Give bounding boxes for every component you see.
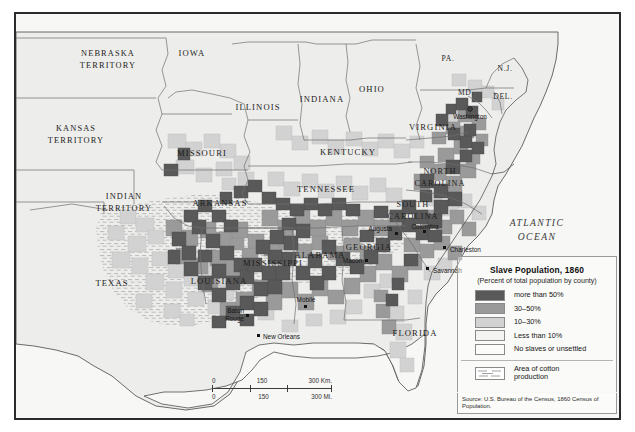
scale-km-150: 150 — [257, 377, 268, 384]
legend-label-over-50: more than 50% — [514, 291, 564, 299]
legend-item-cotton: Area of cotton production — [461, 365, 613, 382]
legend-item-30-50: 30–50% — [461, 303, 613, 314]
city-dot-mobile — [304, 305, 307, 308]
city-label-baton-rouge-line1: Baton — [227, 307, 244, 314]
state-label-georgia: GEORGIA — [346, 242, 392, 252]
state-label-south-carolina-2: CAROLINA — [387, 212, 438, 221]
state-label-alabama: ALABAMA — [294, 250, 345, 260]
city-dot-savannah — [426, 267, 429, 270]
legend-item-10-30: 10–30% — [461, 317, 613, 328]
legend-subtitle: (Percent of total population by county) — [461, 277, 613, 285]
city-label-charleston: Charleston — [450, 246, 481, 253]
city-label-baton-rouge-line2: Rouge — [225, 315, 244, 323]
state-label-tennessee: TENNESSEE — [297, 184, 355, 194]
state-label-texas: TEXAS — [95, 278, 128, 288]
state-label-north-carolina-2: CAROLINA — [414, 179, 465, 188]
state-label-kansas-territory-2: TERRITORY — [48, 136, 104, 145]
legend-label-10-30: 10–30% — [514, 318, 541, 326]
legend-swatch-cotton — [475, 367, 505, 380]
state-abbr-nj: N.J. — [497, 64, 512, 73]
state-label-illinois: ILLINOIS — [235, 102, 280, 112]
state-label-indiana: INDIANA — [300, 94, 344, 104]
city-dot-augusta — [395, 232, 398, 235]
city-dot-baton-rouge — [246, 314, 249, 317]
legend-swatch-under-10 — [475, 330, 505, 341]
legend-label-30-50: 30–50% — [514, 305, 541, 313]
scale-bar: 0 150 300 Km. 0 150 300 Mi. — [212, 377, 332, 400]
city-dot-charleston — [443, 246, 446, 249]
state-label-florida: FLORIDA — [393, 328, 438, 338]
scale-km-labels: 0 150 300 Km. — [212, 377, 332, 384]
ocean-label-line1: ATLANTIC — [509, 217, 565, 228]
city-dot-new-orleans — [257, 334, 260, 337]
state-label-arkansas: ARKANSAS — [192, 198, 247, 208]
state-label-virginia: VIRGINIA — [409, 122, 457, 132]
source-note: Source: U.S. Bureau of the Census, 1860 … — [462, 396, 613, 410]
city-label-new-orleans: New Orleans — [263, 333, 300, 340]
city-dot-columbia — [423, 230, 426, 233]
state-label-south-carolina-1: SOUTH — [397, 200, 430, 209]
state-label-indian-territory-1: INDIAN — [106, 192, 142, 201]
legend-swatch-none — [475, 344, 505, 355]
state-label-nebraska-territory-1: NEBRASKA — [81, 49, 135, 58]
legend-divider — [461, 360, 613, 361]
city-label-mobile: Mobile — [297, 296, 316, 303]
legend-item-under-10: Less than 10% — [461, 330, 613, 341]
state-abbr-del: DEL. — [493, 92, 512, 101]
scale-mi-labels: 0 150 300 Mi. — [212, 393, 332, 400]
scale-mi-150: 150 — [258, 393, 269, 400]
legend-item-over-50: more than 50% — [461, 290, 613, 301]
legend-label-none: No slaves or unsettled — [514, 345, 586, 353]
state-abbr-md: MD. — [458, 88, 474, 97]
scale-mi-0: 0 — [212, 393, 216, 400]
state-label-iowa: IOWA — [179, 48, 206, 58]
map-frame: Washington Columbia Charleston Savannah … — [14, 12, 621, 420]
legend-label-cotton-line2: production — [514, 372, 548, 381]
city-label-columbia: Columbia — [412, 223, 439, 230]
source-note-box: Source: U.S. Bureau of the Census, 1860 … — [457, 393, 617, 414]
city-label-macon: Macon — [343, 257, 363, 264]
scale-mi-300: 300 Mi. — [311, 393, 332, 400]
state-label-kentucky: KENTUCKY — [320, 147, 376, 157]
state-label-indian-territory-2: TERRITORY — [96, 204, 152, 213]
legend-swatch-30-50 — [475, 303, 505, 314]
scale-km-0: 0 — [212, 377, 216, 384]
legend-title: Slave Population, 1860 — [461, 265, 613, 275]
state-abbr-pa: PA. — [441, 54, 454, 63]
legend-swatch-10-30 — [475, 317, 505, 328]
legend-label-under-10: Less than 10% — [514, 332, 562, 340]
city-label-washington: Washington — [453, 113, 487, 121]
city-label-augusta: Augusta — [369, 225, 393, 233]
state-label-nebraska-territory-2: TERRITORY — [80, 61, 136, 70]
state-label-north-carolina-1: NORTH — [423, 167, 456, 176]
ocean-label-line2: OCEAN — [518, 231, 556, 242]
legend-item-none: No slaves or unsettled — [461, 344, 613, 355]
legend-swatch-over-50 — [475, 290, 505, 301]
state-label-missouri: MISSOURI — [177, 148, 227, 158]
legend: Slave Population, 1860 (Percent of total… — [461, 265, 613, 384]
screenshot-root: Washington Columbia Charleston Savannah … — [0, 0, 635, 432]
legend-label-cotton: Area of cotton production — [514, 365, 559, 382]
state-label-ohio: OHIO — [359, 84, 385, 94]
state-label-kansas-territory-1: KANSAS — [56, 124, 96, 133]
city-dot-macon — [365, 259, 368, 262]
state-label-louisiana: LOUISIANA — [191, 276, 248, 286]
scale-km-300: 300 Km. — [309, 377, 332, 384]
scale-bar-graphic — [212, 385, 332, 392]
